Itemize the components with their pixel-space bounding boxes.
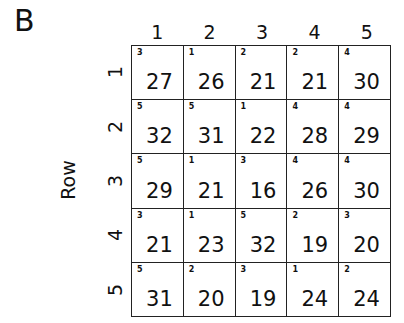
- cell-superscript: 5: [137, 266, 143, 274]
- cell-value: 32: [236, 235, 283, 256]
- row-label: 3: [100, 154, 130, 208]
- cell-value: 24: [287, 289, 334, 310]
- grid-cell: 219: [287, 209, 339, 263]
- cell-superscript: 3: [137, 212, 143, 220]
- cell-value: 20: [339, 235, 386, 256]
- grid-cell: 327: [132, 46, 184, 100]
- grid-cell: 529: [132, 154, 184, 208]
- cell-superscript: 1: [189, 157, 195, 165]
- grid-cell: 126: [184, 46, 236, 100]
- cell-superscript: 3: [344, 212, 350, 220]
- grid-cell: 224: [339, 263, 391, 317]
- cell-value: 21: [132, 235, 179, 256]
- cell-superscript: 3: [241, 266, 247, 274]
- row-label-text: 1: [104, 66, 126, 78]
- cell-superscript: 5: [189, 103, 195, 111]
- row-label-text: 3: [104, 175, 126, 187]
- grid-cell: 316: [236, 154, 288, 208]
- cell-superscript: 4: [344, 157, 350, 165]
- row-label: 1: [100, 45, 130, 99]
- grid-cell: 531: [132, 263, 184, 317]
- row-label-text: 4: [104, 229, 126, 241]
- grid-cell: 319: [236, 263, 288, 317]
- cell-value: 26: [184, 72, 231, 93]
- row-labels: 1 2 3 4 5: [100, 45, 130, 317]
- cell-value: 26: [287, 181, 334, 202]
- cell-superscript: 4: [292, 103, 298, 111]
- grid-cell: 321: [132, 209, 184, 263]
- cell-value: 28: [287, 126, 334, 147]
- cell-value: 16: [236, 181, 283, 202]
- row-label-text: 5: [104, 284, 126, 296]
- grid-cell: 430: [339, 46, 391, 100]
- grid-cell: 220: [184, 263, 236, 317]
- value-grid: 3271262212214305325311224284295291213164…: [131, 45, 391, 317]
- cell-superscript: 3: [241, 157, 247, 165]
- grid-cell: 532: [132, 100, 184, 154]
- column-label: 1: [131, 20, 183, 44]
- grid-cell: 121: [184, 154, 236, 208]
- cell-superscript: 2: [344, 266, 350, 274]
- grid-cell: 531: [184, 100, 236, 154]
- cell-value: 29: [132, 181, 179, 202]
- grid-cell: 123: [184, 209, 236, 263]
- cell-superscript: 1: [189, 212, 195, 220]
- cell-value: 29: [339, 126, 386, 147]
- grid-cell: 122: [236, 100, 288, 154]
- cell-superscript: 5: [137, 157, 143, 165]
- cell-superscript: 1: [189, 49, 195, 57]
- grid-cell: 430: [339, 154, 391, 208]
- cell-superscript: 3: [137, 49, 143, 57]
- column-label: 2: [183, 20, 235, 44]
- row-axis-title: Row: [57, 160, 79, 200]
- cell-value: 19: [236, 289, 283, 310]
- column-label: 5: [341, 20, 393, 44]
- cell-superscript: 2: [292, 49, 298, 57]
- cell-superscript: 5: [241, 212, 247, 220]
- cell-value: 20: [184, 289, 231, 310]
- cell-value: 21: [287, 72, 334, 93]
- row-label: 4: [100, 208, 130, 262]
- cell-superscript: 2: [189, 266, 195, 274]
- cell-value: 31: [132, 289, 179, 310]
- cell-superscript: 1: [241, 103, 247, 111]
- grid-cell: 221: [236, 46, 288, 100]
- cell-value: 30: [339, 181, 386, 202]
- cell-value: 31: [184, 126, 231, 147]
- cell-value: 22: [236, 126, 283, 147]
- column-label: 4: [288, 20, 340, 44]
- cell-value: 19: [287, 235, 334, 256]
- cell-superscript: 1: [292, 266, 298, 274]
- grid-cell: 428: [287, 100, 339, 154]
- row-label-text: 2: [104, 121, 126, 133]
- row-label: 5: [100, 263, 130, 317]
- cell-superscript: 4: [292, 157, 298, 165]
- grid-cell: 426: [287, 154, 339, 208]
- column-labels: 1 2 3 4 5: [131, 20, 393, 44]
- cell-superscript: 2: [292, 212, 298, 220]
- cell-superscript: 4: [344, 49, 350, 57]
- row-label: 2: [100, 99, 130, 153]
- cell-value: 27: [132, 72, 179, 93]
- cell-superscript: 2: [241, 49, 247, 57]
- grid-cell: 124: [287, 263, 339, 317]
- column-label: 3: [236, 20, 288, 44]
- grid-cell: 221: [287, 46, 339, 100]
- grid-cell: 320: [339, 209, 391, 263]
- cell-value: 32: [132, 126, 179, 147]
- cell-value: 23: [184, 235, 231, 256]
- panel-label: B: [14, 6, 35, 36]
- grid-cell: 429: [339, 100, 391, 154]
- cell-superscript: 5: [137, 103, 143, 111]
- cell-value: 21: [236, 72, 283, 93]
- cell-superscript: 4: [344, 103, 350, 111]
- cell-value: 30: [339, 72, 386, 93]
- grid-cell: 532: [236, 209, 288, 263]
- cell-value: 24: [339, 289, 386, 310]
- cell-value: 21: [184, 181, 231, 202]
